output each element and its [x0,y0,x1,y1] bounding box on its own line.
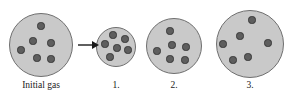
panel-label-container-3: 3. [230,80,270,91]
gas-particle [264,39,271,46]
gas-particle [219,40,226,47]
gas-container-container-2 [146,18,202,74]
panel-label-container-1: 1. [96,80,136,91]
gas-particle [121,35,128,42]
gas-particle [109,31,116,38]
gas-particle [244,53,251,60]
gas-particle [17,46,24,53]
gas-particle [182,43,189,50]
gas-particle [47,55,54,62]
gas-container-container-3 [216,10,284,78]
gas-particle [37,22,44,29]
gas-particle [153,47,160,54]
gas-particle [106,53,113,60]
gas-particle [168,41,175,48]
gas-particle [248,16,255,23]
gas-particle [29,37,36,44]
panel-label-initial-gas: Initial gas [3,80,79,91]
gas-particle [236,32,243,39]
gas-particle [181,56,188,63]
panel-label-container-2: 2. [154,80,194,91]
gas-container-initial-gas [9,13,73,77]
gas-particle [47,39,54,46]
gas-particle [33,54,40,61]
gas-particle [113,44,120,51]
gas-expansion-diagram: Initial gas1.2.3. [0,0,296,102]
gas-particle [124,46,131,53]
gas-particle [166,27,173,34]
transition-arrow-icon [78,38,104,52]
gas-particle [166,55,173,62]
gas-particle [229,56,236,63]
